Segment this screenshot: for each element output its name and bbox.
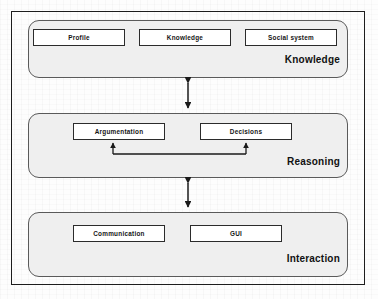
component-box-communication[interactable]: Communication bbox=[73, 225, 165, 242]
layer-title-interaction: Interaction bbox=[287, 253, 340, 264]
component-box-argumentation[interactable]: Argumentation bbox=[73, 123, 165, 140]
layer-panel-interaction bbox=[28, 212, 348, 277]
diagram-canvas: Profile Knowledge Social system Knowledg… bbox=[0, 0, 378, 299]
layer-title-reasoning: Reasoning bbox=[287, 156, 340, 167]
component-box-profile[interactable]: Profile bbox=[33, 29, 125, 46]
component-box-gui[interactable]: GUI bbox=[190, 225, 282, 242]
component-box-social-system[interactable]: Social system bbox=[245, 29, 337, 46]
layer-title-knowledge: Knowledge bbox=[285, 54, 340, 65]
component-box-knowledge[interactable]: Knowledge bbox=[139, 29, 231, 46]
component-box-decisions[interactable]: Decisions bbox=[200, 123, 292, 140]
